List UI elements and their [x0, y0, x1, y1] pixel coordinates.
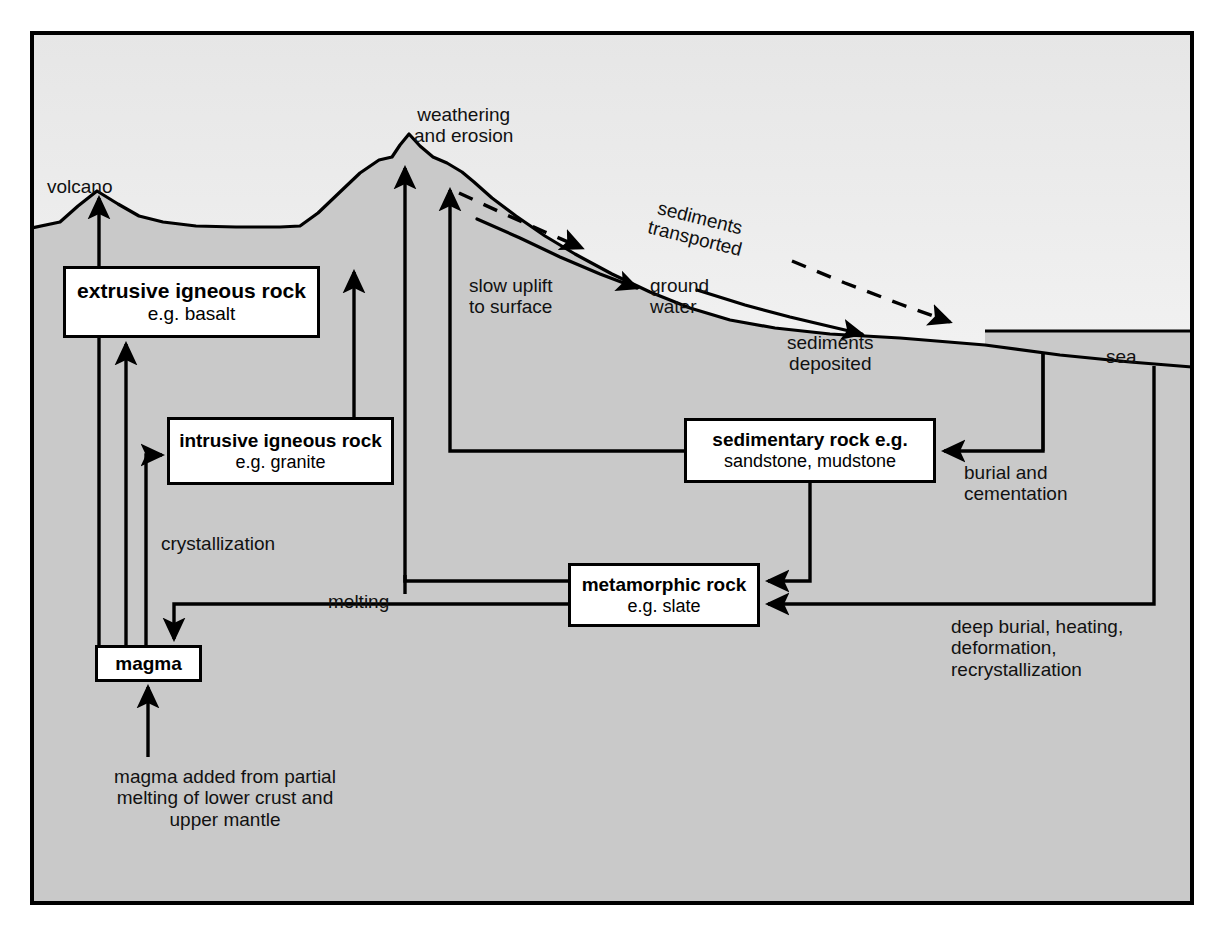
rock-cycle-diagram: extrusive igneous rock e.g. basalt intru… [0, 0, 1220, 936]
label-deep-burial-heating: deep burial, heating, deformation, recry… [951, 616, 1123, 680]
box-extrusive-line1: extrusive igneous rock [77, 279, 306, 303]
box-metamorphic-line2: e.g. slate [627, 596, 700, 617]
box-metamorphic-line1: metamorphic rock [582, 574, 747, 596]
box-intrusive-line2: e.g. granite [235, 452, 325, 473]
box-intrusive-line1: intrusive igneous rock [179, 430, 382, 452]
label-burial-and-cementation: burial and cementation [964, 462, 1068, 505]
box-sedimentary-line2: sandstone, mudstone [724, 451, 896, 472]
box-sedimentary-rock[interactable]: sedimentary rock e.g. sandstone, mudston… [684, 418, 936, 483]
label-slow-uplift-to-surface: slow uplift to surface [469, 275, 552, 318]
box-extrusive-line2: e.g. basalt [148, 303, 236, 325]
label-crystallization: crystallization [161, 533, 275, 554]
box-magma-line1: magma [115, 653, 182, 675]
box-extrusive-igneous-rock[interactable]: extrusive igneous rock e.g. basalt [63, 266, 320, 338]
box-sedimentary-line1: sedimentary rock e.g. [712, 429, 907, 451]
label-sediments-deposited: sediments deposited [787, 332, 874, 375]
label-ground-water: ground water [650, 275, 709, 318]
label-magma-added-partial-melting: magma added from partial melting of lowe… [60, 766, 390, 830]
label-weathering-and-erosion: weathering and erosion [414, 104, 513, 147]
box-magma[interactable]: magma [95, 645, 202, 682]
label-melting: melting [328, 591, 389, 612]
label-sea: sea [1106, 346, 1137, 367]
box-metamorphic-rock[interactable]: metamorphic rock e.g. slate [568, 563, 760, 627]
box-intrusive-igneous-rock[interactable]: intrusive igneous rock e.g. granite [167, 417, 394, 485]
label-volcano: volcano [47, 176, 113, 197]
